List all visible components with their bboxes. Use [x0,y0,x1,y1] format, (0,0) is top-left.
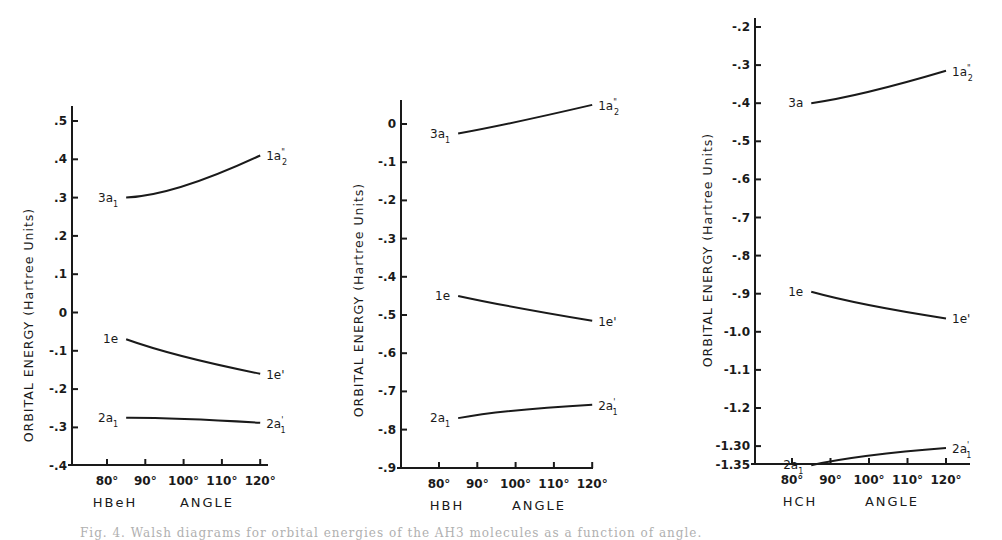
x-tick-label: 110° [206,474,237,488]
y-tick-label: -.8 [378,423,396,437]
orbital-right-label: 2a'1 [598,398,617,417]
y-tick-label: -.8 [732,249,750,263]
y-tick-label: -.7 [378,384,396,398]
x-tick-label: 90° [819,473,842,487]
chart-panel-1: .5.4.3.2.10-.1-.2-.3-.480°90°100°110°120… [21,106,287,510]
y-tick-label: .3 [54,191,67,205]
orbital-curve [126,418,260,423]
x-tick-label: 100° [168,474,199,488]
y-axis-title: ORBITAL ENERGY (Hartree Units) [21,208,36,442]
orbital-right-label: 1a"2 [952,64,973,83]
x-tick-label: 100° [500,477,531,491]
y-tick-label: -.3 [732,58,750,72]
y-tick-label: -1.0 [724,325,750,339]
y-axis-title: ORBITAL ENERGY (Hartree Units) [700,133,715,367]
y-tick-label: -.9 [378,461,396,475]
chart-panel-2: 0-.1-.2-.3-.4-.5-.6-.7-.8-.980°90°100°11… [351,98,619,513]
x-tick-label: 80° [428,477,451,491]
y-tick-label: 0 [59,306,67,320]
x-tick-label: 120° [245,474,276,488]
y-tick-label: -.7 [732,211,750,225]
orbital-left-label: 1e [788,285,803,299]
y-tick-label: -.3 [378,232,396,246]
y-tick-label: -1.30 [715,439,750,453]
y-tick-label: 0 [388,117,396,131]
y-tick-label: -.2 [49,382,67,396]
orbital-left-label: 1e [435,289,450,303]
orbital-right-label: 2a'1 [952,441,971,460]
y-tick-label: -.4 [49,459,67,473]
y-tick-label: -.6 [732,172,750,186]
orbital-right-label: 1e' [266,368,284,382]
orbital-right-label: 1a"2 [598,98,619,117]
orbital-right-label: 1a"2 [266,148,287,167]
y-axis-title: ORBITAL ENERGY (Hartree Units) [351,183,366,417]
x-axis-molecule-label: HCH [783,494,818,509]
y-tick-label: -1.35 [715,458,750,472]
x-axis-title: ANGLE [512,498,566,513]
y-tick-label: -.5 [378,308,396,322]
y-tick-label: -.3 [49,420,67,434]
figure-caption: Fig. 4. Walsh diagrams for orbital energ… [80,526,702,540]
x-tick-label: 120° [930,473,961,487]
orbital-left-label: 3a1 [430,127,450,145]
y-tick-label: -.9 [732,287,750,301]
y-tick-label: -.1 [378,155,396,169]
y-tick-label: -.5 [732,134,750,148]
orbital-curve [811,71,946,103]
orbital-curve [811,292,946,319]
y-tick-label: -1.2 [724,401,750,415]
y-tick-label: .4 [54,152,67,166]
orbital-curve [458,405,592,418]
orbital-curve [126,155,260,197]
x-tick-label: 90° [134,474,157,488]
x-tick-label: 80° [96,474,119,488]
orbital-curve [458,296,592,321]
y-tick-label: -.4 [732,96,750,110]
orbital-right-label: 2a'1 [266,416,285,435]
x-tick-label: 120° [577,477,608,491]
x-axis-molecule-label: HBH [430,498,464,513]
chart-panel-3: -.2-.3-.4-.5-.6-.7-.8-.9-1.0-1.1-1.2-1.3… [700,18,973,509]
y-tick-label: -1.1 [724,363,750,377]
orbital-curve [458,105,592,134]
y-tick-label: -.2 [732,20,750,34]
orbital-curve [126,339,260,373]
x-axis-molecule-label: HBeH [93,495,137,510]
y-tick-label: .2 [54,229,67,243]
orbital-right-label: 1e' [952,312,970,326]
x-tick-label: 110° [538,477,569,491]
orbital-left-label: 1e [103,332,118,346]
x-tick-label: 90° [466,477,489,491]
orbital-right-label: 1e' [598,315,616,329]
x-axis-title: ANGLE [865,494,919,509]
y-tick-label: -.4 [378,270,396,284]
orbital-left-label: 3a [788,96,803,110]
y-tick-label: -.1 [49,344,67,358]
y-tick-label: .1 [54,267,67,281]
y-tick-label: .5 [54,114,67,128]
y-tick-label: -.2 [378,193,396,207]
x-axis-title: ANGLE [180,495,234,510]
y-tick-label: -.6 [378,346,396,360]
x-tick-label: 110° [892,473,923,487]
orbital-left-label: 2a1 [98,411,118,429]
orbital-left-label: 2a1 [430,411,450,429]
x-tick-label: 100° [853,473,884,487]
orbital-left-label: 3a1 [98,191,118,209]
